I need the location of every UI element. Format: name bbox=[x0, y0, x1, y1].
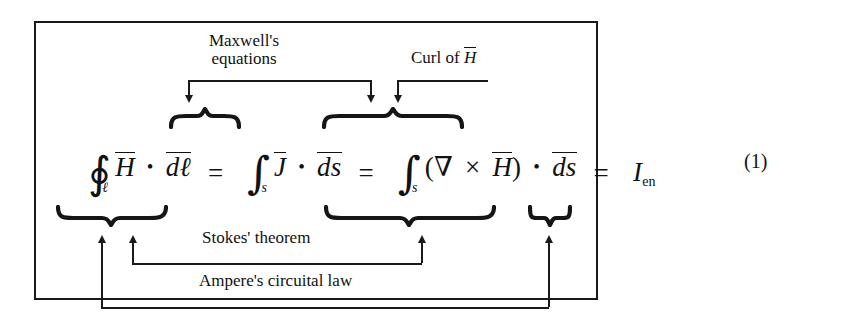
ampere-connector-vline-right bbox=[548, 242, 550, 307]
ampere-connector-vline-left bbox=[101, 242, 103, 307]
curl-connector-hline bbox=[397, 80, 488, 82]
curl-of-h-field: H bbox=[464, 47, 476, 66]
overbrace-term3 bbox=[322, 107, 464, 129]
stokes-connector-vline-left bbox=[132, 242, 134, 263]
equation-term-1: ∮ℓH•dℓ bbox=[88, 152, 191, 196]
stokes-arrow-left bbox=[129, 235, 137, 243]
curl-of-h-text: Curl of bbox=[411, 48, 464, 67]
underbrace-term4 bbox=[528, 205, 572, 227]
surface-integral-subscript-2: s bbox=[412, 180, 418, 196]
term3-differential-ds: ds bbox=[552, 152, 576, 181]
term3-dot-operator: • bbox=[533, 156, 540, 177]
term2-field-j: J bbox=[274, 152, 286, 181]
nabla-operator: ∇ bbox=[434, 152, 453, 182]
stokes-theorem-label: Stokes' theorem bbox=[202, 229, 310, 247]
equation-term-4: Ien bbox=[633, 157, 656, 190]
equation-term-3: ∫s(∇×H)•ds bbox=[398, 151, 577, 196]
ampere-arrow-left bbox=[98, 235, 106, 243]
cross-product-operator: × bbox=[465, 152, 480, 182]
term1-dot-operator: • bbox=[147, 156, 154, 177]
maxwell-arrow-left bbox=[185, 95, 193, 103]
surface-integral-subscript-1: s bbox=[261, 180, 267, 196]
main-equation: ∮ℓH•dℓ= ∫sJ•ds= ∫s(∇×H)•ds= Ien bbox=[88, 151, 656, 196]
term1-field-h: H bbox=[115, 152, 135, 181]
curl-of-h-label: Curl of H bbox=[411, 47, 476, 67]
maxwell-arrow-right bbox=[367, 95, 375, 103]
underbrace-term3 bbox=[324, 205, 496, 227]
stokes-connector-vline-right bbox=[421, 242, 423, 263]
term2-dot-operator: • bbox=[298, 156, 305, 177]
current-symbol: I bbox=[633, 157, 642, 187]
equation-number: (1) bbox=[744, 150, 767, 173]
ampere-connector-hline bbox=[101, 307, 549, 309]
curl-arrow bbox=[394, 95, 402, 103]
term2-differential-ds: ds bbox=[317, 152, 341, 181]
maxwell-equations-line2: equations bbox=[174, 50, 314, 68]
maxwell-equations-label: Maxwell's equations bbox=[174, 32, 314, 69]
term1-differential-dl: dℓ bbox=[166, 152, 191, 181]
term3-close-paren: ) bbox=[512, 152, 521, 182]
stokes-arrow-right bbox=[418, 235, 426, 243]
current-subscript-en: en bbox=[642, 174, 656, 190]
equals-sign-2: = bbox=[359, 158, 374, 189]
maxwell-connector-hline bbox=[188, 80, 372, 82]
term3-field-h: H bbox=[492, 152, 512, 181]
equation-term-2: ∫sJ•ds bbox=[247, 152, 341, 196]
equals-sign-3: = bbox=[594, 158, 609, 189]
ampere-arrow-right bbox=[545, 235, 553, 243]
underbrace-term1 bbox=[56, 205, 168, 227]
overbrace-term2 bbox=[169, 107, 241, 129]
figure-border-box: Maxwell's equations Curl of H ∮ℓH•dℓ= ∫s… bbox=[34, 21, 598, 300]
stokes-connector-hline bbox=[132, 263, 422, 265]
term3-open-paren: ( bbox=[425, 152, 434, 182]
equals-sign-1: = bbox=[208, 158, 223, 189]
figure-stage: Maxwell's equations Curl of H ∮ℓH•dℓ= ∫s… bbox=[0, 0, 841, 318]
contour-integral-subscript: ℓ bbox=[102, 180, 108, 196]
ampere-circuital-law-label: Ampere's circuital law bbox=[199, 272, 352, 290]
maxwell-equations-line1: Maxwell's bbox=[174, 32, 314, 50]
